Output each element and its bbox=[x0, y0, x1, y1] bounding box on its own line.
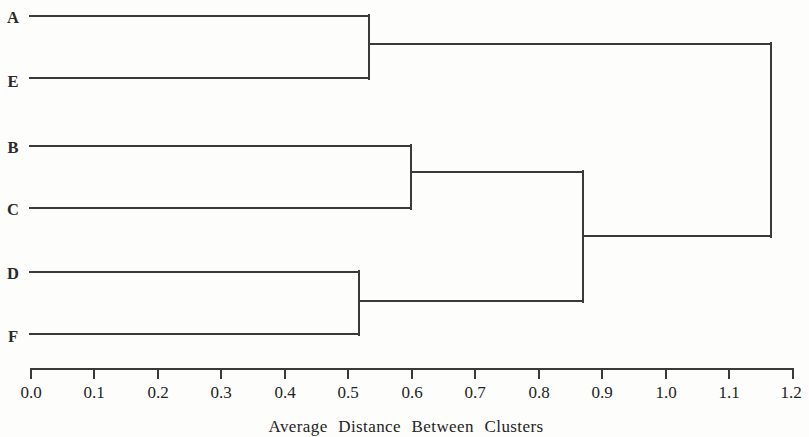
x-axis-tick-label-5: 0.5 bbox=[337, 383, 358, 402]
x-axis-title: Average Distance Between Clusters bbox=[269, 417, 544, 436]
x-axis-tick-label-9: 0.9 bbox=[591, 383, 612, 402]
leaf-label-d: D bbox=[7, 264, 19, 283]
x-axis-tick-label-8: 0.8 bbox=[528, 383, 549, 402]
x-axis bbox=[31, 369, 793, 378]
x-axis-tick-label-7: 0.7 bbox=[464, 383, 486, 402]
x-axis-tick-label-12: 1.2 bbox=[780, 383, 801, 402]
leaf-label-b: B bbox=[7, 138, 18, 157]
x-axis-tick-label-1: 0.1 bbox=[83, 383, 104, 402]
leaf-label-e: E bbox=[7, 72, 18, 91]
leaf-label-a: A bbox=[7, 8, 19, 27]
x-axis-tick-label-2: 0.2 bbox=[147, 383, 168, 402]
dendrogram-plot-area: A E B C D F bbox=[0, 0, 809, 437]
x-axis-tick-label-6: 0.6 bbox=[401, 383, 422, 402]
x-axis-tick-label-4: 0.4 bbox=[274, 383, 296, 402]
dendrogram-linkage-tree bbox=[30, 15, 771, 335]
leaf-label-c: C bbox=[7, 200, 19, 219]
x-axis-tick-labels: 0.0 0.1 0.2 0.3 0.4 0.5 0.6 0.7 0.8 0.9 … bbox=[20, 383, 801, 402]
x-axis-tick-label-3: 0.3 bbox=[210, 383, 231, 402]
x-axis-tick-label-11: 1.1 bbox=[718, 383, 739, 402]
x-axis-tick-label-10: 1.0 bbox=[655, 383, 676, 402]
leaf-label-f: F bbox=[8, 327, 18, 346]
x-axis-tick-label-0: 0.0 bbox=[20, 383, 41, 402]
dendrogram-figure: A E B C D F bbox=[0, 0, 809, 437]
